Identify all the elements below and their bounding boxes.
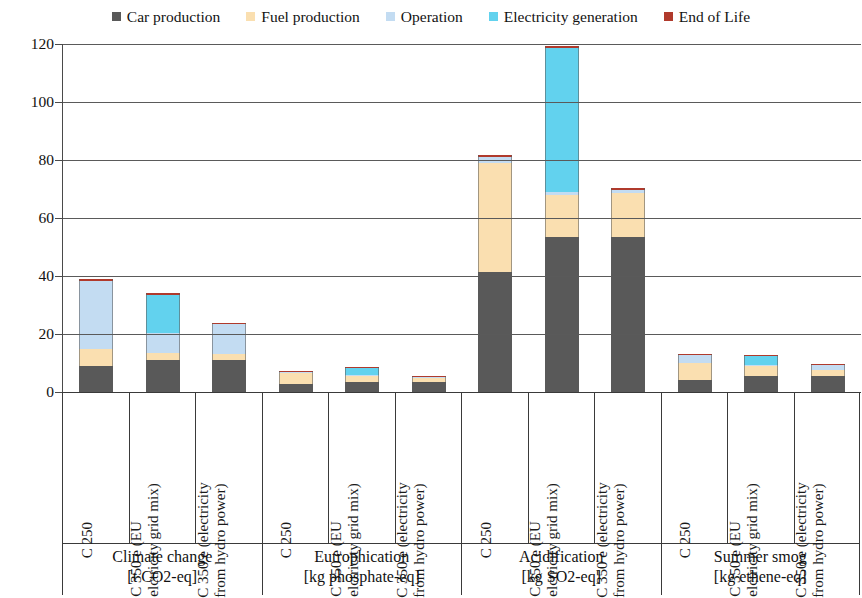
- gridline: [63, 44, 861, 45]
- group-label-cell: Eutrophication[kg phosphate-eq]: [262, 544, 462, 595]
- group-name: Climate change: [112, 547, 212, 567]
- bar-segment[interactable]: [79, 281, 113, 348]
- bar-segment[interactable]: [678, 354, 712, 355]
- bar-segment[interactable]: [146, 353, 180, 360]
- bar-segment[interactable]: [146, 295, 180, 333]
- bar-segment[interactable]: [744, 356, 778, 365]
- bar-segment[interactable]: [345, 375, 379, 376]
- bar-segment[interactable]: [744, 366, 778, 376]
- group-label-band: Climate change[t CO2-eq]Eutrophication[k…: [62, 544, 860, 595]
- bar-segment[interactable]: [611, 188, 645, 190]
- bar-segment[interactable]: [678, 354, 712, 363]
- bar-segment[interactable]: [611, 237, 645, 392]
- category-label-cell: C 350 e (electricityfrom hydro power): [794, 392, 861, 544]
- group-unit: [t CO2-eq]: [127, 567, 197, 587]
- bar-segment[interactable]: [611, 190, 645, 194]
- category-label-cell: C 350 e (EUelctricity grid mix): [328, 392, 395, 544]
- category-label-cell: C 350 e (EUelctricity grid mix): [727, 392, 794, 544]
- group-unit: [kg ethene-eq]: [714, 567, 807, 587]
- bar-segment[interactable]: [545, 46, 579, 48]
- group-label-cell: Climate change[t CO2-eq]: [62, 544, 262, 595]
- gridline: [63, 160, 861, 161]
- bar-segment[interactable]: [478, 155, 512, 157]
- bar-segment[interactable]: [744, 365, 778, 366]
- bar-segment[interactable]: [212, 360, 246, 392]
- bar-segment[interactable]: [678, 363, 712, 380]
- bar-segment[interactable]: [146, 360, 180, 392]
- bar-segment[interactable]: [212, 354, 246, 359]
- category-label-cell: C 250: [62, 392, 129, 544]
- bar-segment[interactable]: [345, 382, 379, 392]
- gridline: [63, 102, 861, 103]
- group-label-cell: Acidification[kg SO2-eq]: [461, 544, 661, 595]
- bar-segment[interactable]: [545, 192, 579, 195]
- plot-area: [62, 44, 860, 392]
- gridline: [63, 218, 861, 219]
- bar-segment[interactable]: [811, 376, 845, 392]
- bar-segment[interactable]: [811, 364, 845, 370]
- bar-segment[interactable]: [744, 376, 778, 392]
- bar-segment[interactable]: [811, 370, 845, 376]
- category-label-band: C 250C 350 e (EUelctricity grid mix)C 35…: [62, 392, 860, 544]
- bar-segment[interactable]: [279, 384, 313, 392]
- category-label-cell: C 250: [461, 392, 528, 544]
- group-label-cell: Summer smog[kg ethene-eq]: [661, 544, 861, 595]
- bar-segment[interactable]: [79, 349, 113, 366]
- bar-segment[interactable]: [744, 355, 778, 356]
- category-label-cell: C 350 e (EUelctricity grid mix): [528, 392, 595, 544]
- y-axis-title-wrap: [unit/car]: [0, 44, 62, 392]
- group-name: Acidification: [519, 547, 603, 567]
- bar-segment[interactable]: [146, 333, 180, 353]
- category-label-cell: C 350 e (EUelctricity grid mix): [129, 392, 196, 544]
- category-label-cell: C 350 e (electricityfrom hydro power): [395, 392, 462, 544]
- group-unit: [kg SO2-eq]: [521, 567, 601, 587]
- category-label-cell: C 350 e (electricityfrom hydro power): [195, 392, 262, 544]
- bar-segment[interactable]: [146, 293, 180, 294]
- category-label-cell: C 350 e (electricityfrom hydro power): [594, 392, 661, 544]
- bar-segment[interactable]: [545, 237, 579, 392]
- bar-segment[interactable]: [279, 373, 313, 384]
- bar-segment[interactable]: [345, 367, 379, 375]
- group-name: Eutrophication: [314, 547, 409, 567]
- bar-segment[interactable]: [79, 279, 113, 281]
- bar-segment[interactable]: [678, 380, 712, 392]
- bar-segment[interactable]: [478, 272, 512, 392]
- bar-segment[interactable]: [545, 195, 579, 237]
- bar-segment[interactable]: [611, 193, 645, 237]
- category-label-cell: C 250: [661, 392, 728, 544]
- bar-segment[interactable]: [212, 324, 246, 354]
- group-name: Summer smog: [714, 547, 807, 567]
- bar-segment[interactable]: [79, 366, 113, 392]
- bar-segment[interactable]: [412, 377, 446, 378]
- category-label-cell: C 250: [262, 392, 329, 544]
- gridline: [63, 276, 861, 277]
- bar-segment[interactable]: [212, 323, 246, 324]
- bar-segment[interactable]: [545, 48, 579, 192]
- bar-segment[interactable]: [279, 371, 313, 373]
- bar-segment[interactable]: [811, 364, 845, 365]
- bar-segment[interactable]: [412, 382, 446, 392]
- bar-segment[interactable]: [345, 376, 379, 382]
- bar-segment[interactable]: [412, 378, 446, 382]
- gridline: [63, 334, 861, 335]
- group-unit: [kg phosphate-eq]: [304, 567, 420, 587]
